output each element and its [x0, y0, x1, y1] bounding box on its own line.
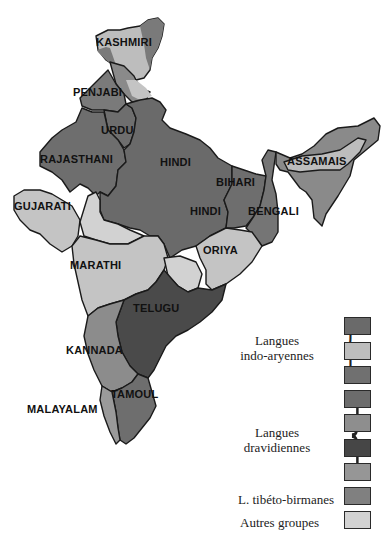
swatch-indo-aryennes-3: [344, 366, 371, 384]
swatch-dravidiennes-2: [344, 414, 371, 432]
label-oriya: ORIYA: [203, 244, 238, 256]
legend-group-dravidiennes: Langues dravidiennes: [232, 425, 322, 455]
swatch-autres-groupes: [344, 511, 371, 529]
swatch-indo-aryennes-2: [344, 342, 371, 360]
label-telugu: TELUGU: [133, 302, 179, 314]
swatch-dravidiennes-4: [344, 463, 371, 481]
swatch-indo-aryennes-1: [344, 317, 371, 335]
label-tamoul: TAMOUL: [111, 388, 158, 400]
swatch-dravidiennes-1: [344, 390, 371, 408]
legend-group-label-line1: Langues: [232, 333, 322, 348]
label-rajasthani: RAJASTHANI: [40, 153, 113, 165]
legend-item-tibeto-birmanes: L. tibéto-birmanes: [238, 492, 334, 507]
swatch-dravidiennes-3: [344, 439, 371, 457]
legend-item-autres-groupes: Autres groupes: [240, 515, 319, 530]
swatch-tibeto-birmanes: [344, 487, 371, 505]
label-hindi: HINDI: [160, 156, 191, 168]
label-bihari: BIHARI: [216, 176, 255, 188]
label-penjabi: PENJABI: [73, 86, 122, 98]
legend-group-label-line2: indo-aryennes: [232, 348, 322, 363]
label-assamais: ASSAMAIS: [287, 155, 347, 167]
label-urdu: URDU: [101, 124, 134, 136]
label-gujarati: GUJARATI: [14, 200, 71, 212]
legend-group-label-line2: dravidiennes: [232, 440, 322, 455]
legend-group-label-line1: Langues: [232, 425, 322, 440]
label-kashmiri: KASHMIRI: [96, 36, 152, 48]
legend-group-indo-aryennes: Langues indo-aryennes: [232, 333, 322, 363]
label-marathi: MARATHI: [70, 259, 121, 271]
label-hindi-south: HINDI: [190, 205, 221, 217]
label-malayalam: MALAYALAM: [27, 403, 98, 415]
label-bengali: BENGALI: [248, 205, 299, 217]
india-language-map: KASHMIRI PENJABI URDU RAJASTHANI HINDI B…: [0, 0, 387, 537]
label-kannada: KANNADA: [66, 344, 123, 356]
